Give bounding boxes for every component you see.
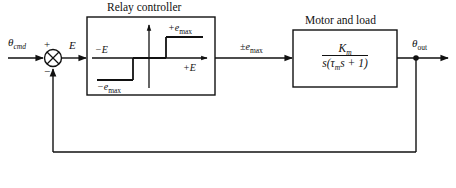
error-signal-label: E [69, 40, 76, 51]
diagram-canvas [0, 0, 456, 188]
relay-plot-positive-axis-label: +E [183, 63, 196, 73]
summing-junction-minus-sign: − [44, 66, 50, 77]
relay-control-block-diagram: θcmd + − E Relay controller +emax −emax … [0, 0, 456, 188]
motor-and-load-title: Motor and load [305, 15, 376, 27]
relay-plot-negative-axis-label: −E [95, 45, 108, 55]
transfer-function-numerator: Km [322, 42, 367, 56]
summing-junction-symbol [45, 50, 62, 67]
relay-plot-positive-saturation-label: +emax [168, 23, 192, 33]
summing-junction-plus-sign: + [44, 39, 50, 50]
transfer-function-denominator: s(τms + 1) [322, 56, 367, 69]
relay-output-signal-label: ±emax [240, 42, 263, 52]
relay-plot-negative-saturation-label: −emax [97, 82, 121, 92]
output-signal-label: θout [412, 38, 427, 49]
output-signal-line [397, 55, 448, 61]
motor-transfer-function: Km s(τms + 1) [293, 42, 397, 71]
input-signal-label: θcmd [8, 37, 26, 48]
relay-controller-title: Relay controller [107, 2, 181, 14]
